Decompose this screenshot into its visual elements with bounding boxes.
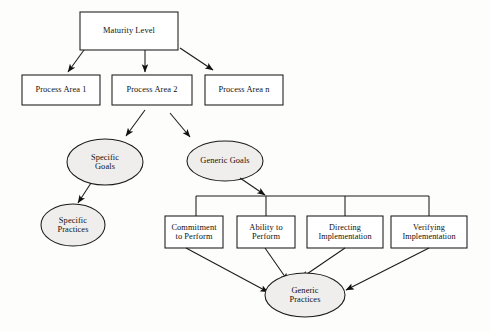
edge-verifying-generic-practices <box>346 248 429 290</box>
node-process-area-n-shape[interactable] <box>205 75 283 105</box>
edge-pa2-specific-goals <box>126 110 145 136</box>
diagram-canvas: Maturity Level Process Area 1 Process Ar… <box>0 0 490 332</box>
edge-pa2-generic-goals <box>170 113 190 137</box>
edge-specific-goals-practices <box>78 183 91 203</box>
edge-ml-pan <box>180 48 213 70</box>
node-directing-implementation-shape[interactable] <box>307 216 383 248</box>
diagram-svg <box>0 0 490 332</box>
node-ability-to-perform-shape[interactable] <box>237 216 295 248</box>
node-generic-practices-shape[interactable] <box>265 273 345 317</box>
edge-generic-goals-bus <box>240 178 265 195</box>
node-specific-goals-shape[interactable] <box>67 139 143 185</box>
node-verifying-implementation-shape[interactable] <box>391 216 467 248</box>
node-maturity-level-shape[interactable] <box>80 12 178 50</box>
node-process-area-2-shape[interactable] <box>112 75 192 105</box>
node-process-area-1-shape[interactable] <box>22 75 100 105</box>
node-generic-goals-shape[interactable] <box>187 141 263 181</box>
node-specific-practices-shape[interactable] <box>41 204 105 246</box>
node-commitment-to-perform-shape[interactable] <box>165 216 223 248</box>
edge-ml-pa1 <box>68 50 84 72</box>
edge-commitment-generic-practices <box>186 248 268 292</box>
